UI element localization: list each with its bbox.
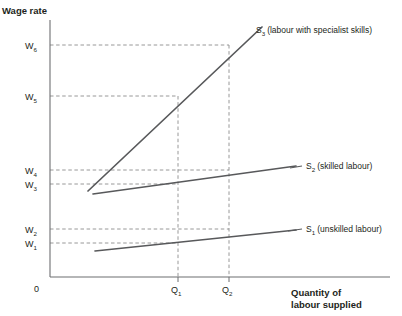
curve-label-s2: S2(skilled labour) <box>306 161 373 173</box>
y-axis-title: Wage rate <box>2 5 47 16</box>
x-tick-label-q1: Q1 <box>171 285 182 297</box>
labour-supply-diagram: Wage rate 0 W6 W5 W4 W3 W2 W1 Q1 Q2 S3(l… <box>0 0 402 316</box>
diagram-canvas: Wage rate 0 W6 W5 W4 W3 W2 W1 Q1 Q2 S3(l… <box>0 0 402 316</box>
curve-label-s3: S3(labour with specialist skills) <box>256 25 372 37</box>
y-tick-label-w6: W6 <box>25 41 38 53</box>
y-tick-label-w2: W2 <box>25 225 38 237</box>
origin-label: 0 <box>34 284 39 294</box>
x-tick-label-q2: Q2 <box>222 285 233 297</box>
curve-label-s1: S1(unskilled labour) <box>306 224 382 236</box>
y-tick-label-w1: W1 <box>25 239 38 251</box>
x-axis-title-line1: Quantity of <box>291 287 342 298</box>
x-axis-title-line2: labour supplied <box>291 299 362 310</box>
curve-s1 <box>95 230 296 251</box>
y-tick-label-w4: W4 <box>25 166 38 178</box>
curve-s3 <box>88 27 262 191</box>
y-tick-label-w3: W3 <box>25 180 38 192</box>
y-tick-label-w5: W5 <box>25 92 38 104</box>
